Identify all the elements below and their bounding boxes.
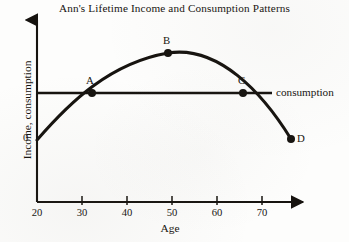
- x-tick-label-60: 60: [200, 207, 234, 218]
- point-label-d: D: [297, 133, 305, 144]
- data-point-a: [88, 89, 96, 97]
- point-label-b: B: [163, 35, 170, 46]
- chart-figure: Ann's Lifetime Income and Consumption Pa…: [0, 0, 349, 242]
- consumption-series-label: consumption: [276, 86, 334, 98]
- x-tick-label-30: 30: [65, 207, 99, 218]
- point-label-c: C: [238, 75, 245, 86]
- y-axis-label: Income, consumption: [21, 35, 33, 185]
- x-tick-label-20: 20: [20, 207, 54, 218]
- x-axis-ticks: [82, 196, 262, 205]
- data-point-b: [164, 49, 172, 57]
- x-tick-label-70: 70: [245, 207, 279, 218]
- point-label-a: A: [86, 75, 94, 86]
- data-point-d: [287, 135, 295, 143]
- origin-label: 0: [23, 132, 28, 143]
- income-curve: [37, 52, 291, 140]
- data-point-c: [239, 89, 247, 97]
- x-tick-label-50: 50: [155, 207, 189, 218]
- x-tick-label-40: 40: [110, 207, 144, 218]
- x-axis-label: Age: [125, 222, 215, 234]
- chart-plot-area: [0, 0, 349, 242]
